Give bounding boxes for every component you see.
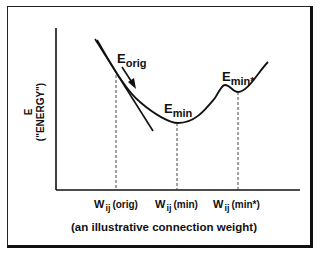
y-axis-label-e: E (23, 108, 34, 115)
y-axis-label-energy: ("ENERGY") (35, 83, 46, 141)
x-tick-min: Wij(min) (155, 198, 198, 213)
x-tick-min-star: Wij(min*) (213, 198, 260, 213)
label-e-orig: Eorig (117, 51, 146, 69)
x-axis-caption: (an illustrative connection weight) (71, 221, 257, 233)
arrow-head-icon (128, 78, 136, 89)
label-e-min-star: Emin* (222, 69, 255, 87)
energy-curve-diagram: Eorig Emin Emin* E ("ENERGY") Wij(orig) … (0, 0, 325, 260)
x-tick-orig: Wij(orig) (94, 198, 138, 213)
label-e-min: Emin (164, 101, 193, 119)
